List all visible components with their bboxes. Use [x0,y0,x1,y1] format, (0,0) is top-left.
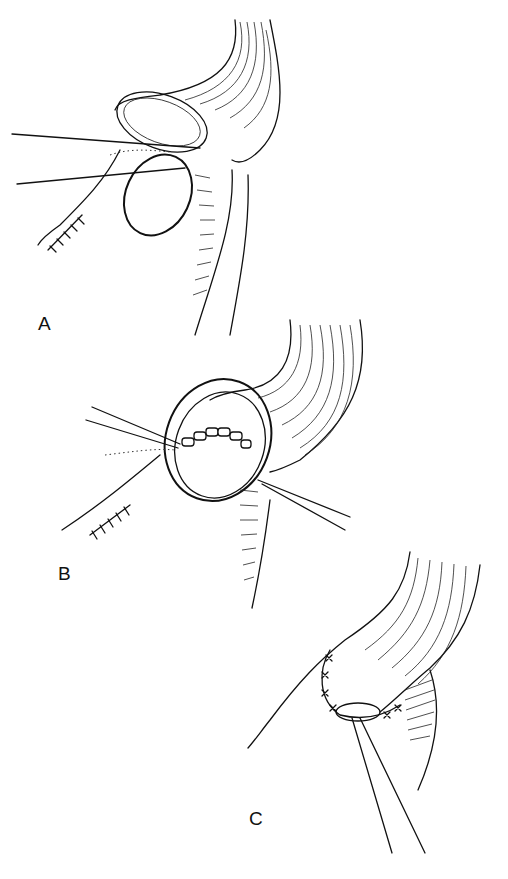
panel-b-drawing [62,320,363,608]
panel-a-drawing [12,20,280,335]
suture-row-a [48,215,84,252]
panel-label-b: B [58,563,71,585]
surgical-illustration [0,0,508,879]
panel-label-a: A [38,313,51,335]
suture-row-c [322,655,401,718]
mucosal-sutures [182,428,251,448]
panel-label-c: C [249,808,263,830]
panel-c-drawing [248,552,480,853]
suture-row-b [90,505,130,539]
